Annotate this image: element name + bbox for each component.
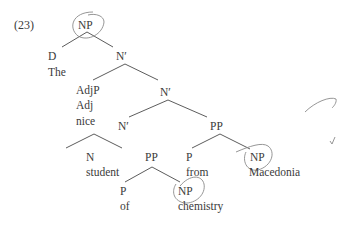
node-np-root: NP xyxy=(78,19,93,32)
node-pp-1: PP xyxy=(210,120,223,133)
node-p-2: P xyxy=(120,185,126,198)
word-macedonia: Macedonia xyxy=(249,166,300,179)
node-p-1: P xyxy=(186,151,192,164)
word-of: of xyxy=(120,200,130,213)
node-nbar-2: N′ xyxy=(160,86,171,99)
node-nbar-3: N′ xyxy=(118,120,129,133)
word-the: The xyxy=(48,66,66,79)
node-np-macedonia: NP xyxy=(250,151,265,164)
node-np-chemistry: NP xyxy=(178,185,193,198)
node-adj: Adj xyxy=(76,99,93,112)
example-number: (23) xyxy=(14,18,34,33)
word-nice: nice xyxy=(76,115,95,128)
tree-lines xyxy=(0,0,353,229)
node-nbar-1: N′ xyxy=(116,50,127,63)
word-chemistry: chemistry xyxy=(178,200,223,213)
node-d: D xyxy=(48,50,56,63)
node-adjp: AdjP xyxy=(76,84,100,97)
word-student: student xyxy=(86,166,119,179)
node-n: N xyxy=(86,151,94,164)
node-pp-2: PP xyxy=(145,151,158,164)
word-from: from xyxy=(186,166,208,179)
